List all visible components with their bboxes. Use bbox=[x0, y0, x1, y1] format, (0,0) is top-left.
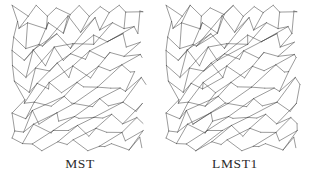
caption-lmst1: LMST1 bbox=[155, 154, 315, 174]
panels-row bbox=[0, 0, 318, 155]
panel-lmst1 bbox=[164, 3, 302, 153]
mst-edge-group bbox=[12, 5, 146, 151]
caption-mst: MST bbox=[0, 154, 160, 174]
captions-row: MST LMST1 bbox=[0, 154, 318, 185]
lmst1-edge-group bbox=[166, 5, 300, 151]
panel-mst bbox=[10, 3, 148, 153]
lmst1-graph-plot bbox=[164, 3, 302, 153]
figure-container: MST LMST1 bbox=[0, 0, 318, 185]
mst-graph-plot bbox=[10, 3, 148, 153]
